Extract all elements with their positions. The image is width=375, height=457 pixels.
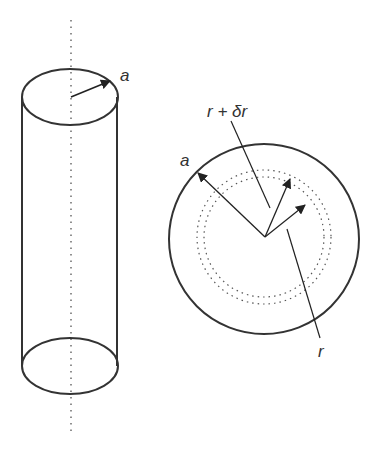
shell-outer-dotted-circle [197,170,331,304]
diagram-canvas: a a r + δr r [0,0,375,457]
outer-radius-label: a [180,151,189,170]
shell-inner-label: r [318,342,325,361]
shell-outer-label: r + δr [207,102,248,121]
cylinder-top-ellipse [22,69,118,125]
outer-radius-arrow [198,173,265,237]
cylinder-radius-arrow [71,81,110,97]
cylinder-bottom-ellipse [22,338,118,394]
cylinder: a [22,20,129,432]
shell-outer-radius-arrow [265,179,290,237]
shell-outer-leader-line [231,121,270,208]
cross-section: a r + δr r [169,102,359,361]
outer-circle [169,144,359,334]
shell-inner-radius-arrow [265,205,305,237]
cylinder-radius-label: a [120,66,129,85]
shell-inner-leader-line [287,229,320,338]
